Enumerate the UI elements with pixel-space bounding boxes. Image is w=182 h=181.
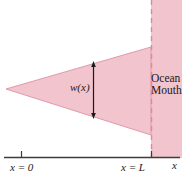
- width-function-label: w(x): [70, 82, 90, 94]
- ocean-mouth-label: Ocean Mouth: [151, 72, 182, 96]
- ocean-label-line: Ocean: [151, 72, 182, 84]
- axis-label-x-ell: x = L: [121, 162, 145, 174]
- axis-label-x-zero: x = 0: [10, 162, 33, 174]
- mouth-label-line: Mouth: [151, 84, 182, 96]
- axis-label-x: x: [172, 160, 177, 172]
- estuary-figure: w(x) x = 0 x = L x Ocean Mouth: [0, 0, 182, 181]
